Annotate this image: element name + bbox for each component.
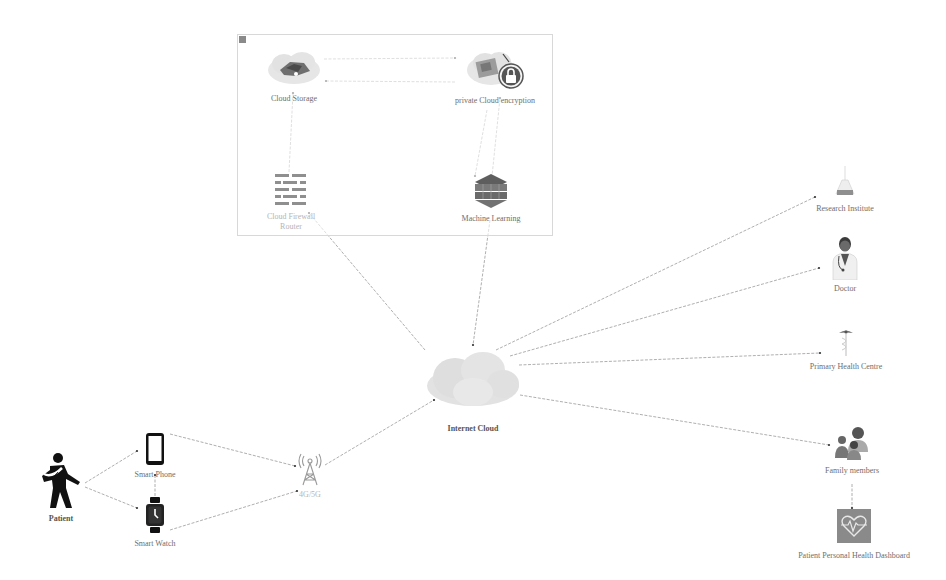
layers-icon	[473, 172, 509, 214]
person-with-arm-sling-icon	[38, 452, 84, 514]
node-label: Machine Learning	[462, 214, 521, 224]
node-patient-health-dashboard[interactable]: Patient Personal Health Dashboard	[784, 509, 924, 561]
node-cloud-storage[interactable]: Cloud Storage	[256, 50, 332, 104]
node-label: Primary Health Centre	[810, 362, 882, 372]
node-internet-cloud[interactable]: Internet Cloud	[418, 348, 528, 434]
node-doctor[interactable]: Doctor	[818, 236, 872, 294]
node-label: Patient Personal Health Dashboard	[798, 551, 910, 561]
node-label: Smart Watch	[134, 539, 175, 549]
node-label-line1: Cloud Firewall	[267, 212, 315, 222]
node-smart-watch[interactable]: Smart Watch	[122, 497, 188, 549]
node-cloud-firewall-router[interactable]: Cloud Firewall Router	[256, 172, 326, 232]
node-label: Internet Cloud	[448, 424, 499, 434]
node-patient[interactable]: Patient	[30, 452, 92, 524]
flask-icon	[834, 164, 856, 204]
cell-tower-icon	[297, 452, 323, 490]
node-family-members[interactable]: Family members	[812, 426, 892, 476]
node-label: Cloud Storage	[271, 94, 317, 104]
node-label: Smart Phone	[134, 470, 175, 480]
node-smart-phone[interactable]: Smart Phone	[122, 432, 188, 480]
node-label-line2: Router	[280, 222, 302, 232]
family-icon	[832, 426, 872, 464]
node-network-tower[interactable]: 4G/5G	[292, 452, 328, 500]
doctor-icon	[829, 236, 861, 284]
group-collapse-icon[interactable]	[239, 36, 246, 43]
node-label: Family members	[825, 466, 879, 476]
heart-monitor-icon	[837, 509, 871, 547]
firewall-icon	[273, 172, 309, 212]
diagram-canvas: Cloud Storage private Cloud encryption	[0, 0, 946, 580]
node-research-institute[interactable]: Research Institute	[805, 164, 885, 214]
node-label: Research Institute	[816, 204, 874, 214]
node-label: Patient	[49, 514, 73, 524]
node-primary-health-centre[interactable]: Primary Health Centre	[800, 326, 892, 372]
caduceus-icon	[836, 326, 856, 362]
node-label: Doctor	[834, 284, 856, 294]
node-label: 4G/5G	[299, 490, 321, 500]
node-label: private Cloud encryption	[455, 96, 535, 106]
cloud-storage-icon	[266, 50, 322, 92]
node-private-cloud-encryption[interactable]: private Cloud encryption	[440, 48, 550, 106]
smartphone-icon	[145, 432, 165, 470]
cloud-icon	[423, 348, 523, 414]
smartwatch-icon	[145, 497, 165, 539]
lock-cloud-icon	[463, 48, 527, 96]
node-machine-learning[interactable]: Machine Learning	[446, 172, 536, 224]
